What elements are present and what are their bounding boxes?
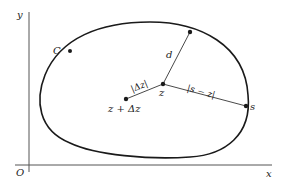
point-nearest-on-curve [188,30,192,34]
segment-s-minus-z-label: |s − z| [186,83,217,101]
origin-label: O [16,167,24,178]
point-z-plus-dz [124,97,128,101]
closed-curve-c [40,22,248,158]
point-c [68,49,72,53]
point-z [161,82,165,86]
point-z-plus-dz-label: z + Δz [107,103,141,114]
segment-d-label: d [166,49,172,60]
point-s-label: s [250,101,255,112]
point-s [244,104,248,108]
point-z-label: z [158,87,165,98]
contour-diagram: y O x C d z z + Δz s |Δz| |s − z| [0,0,286,189]
curve-label: C [53,45,61,56]
segment-delta-z-label: |Δz| [129,78,149,95]
y-axis-label: y [16,9,23,20]
x-axis-label: x [266,168,272,179]
